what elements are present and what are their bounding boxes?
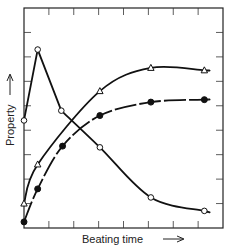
open-circle-marker <box>97 145 103 151</box>
x-axis-label: Beating time <box>82 233 143 245</box>
filled-circle-marker <box>35 186 41 192</box>
open-circle-curve <box>24 50 210 213</box>
filled-circle-marker <box>60 143 66 149</box>
y-axis-arrow-icon <box>7 74 13 95</box>
plot-border <box>24 8 223 228</box>
data-curves <box>24 50 210 222</box>
open-circle-marker <box>148 195 154 201</box>
filled-circle-curve <box>24 99 210 221</box>
filled-circle-marker <box>201 97 207 103</box>
open-circle-marker <box>59 108 65 114</box>
open-circle-marker <box>202 208 208 214</box>
open-circle-marker <box>21 118 27 124</box>
filled-circle-marker <box>148 99 154 105</box>
filled-circle-marker <box>97 113 103 119</box>
y-axis-label: Property <box>4 104 16 146</box>
open-triangle-marker <box>21 200 27 206</box>
chart: Beating time Property <box>0 0 232 249</box>
data-markers <box>21 47 208 225</box>
x-axis-arrow-icon <box>163 236 184 242</box>
axis-ticks <box>24 8 223 228</box>
filled-circle-marker <box>21 219 27 225</box>
open-circle-marker <box>35 47 41 53</box>
plot-frame <box>24 8 223 228</box>
